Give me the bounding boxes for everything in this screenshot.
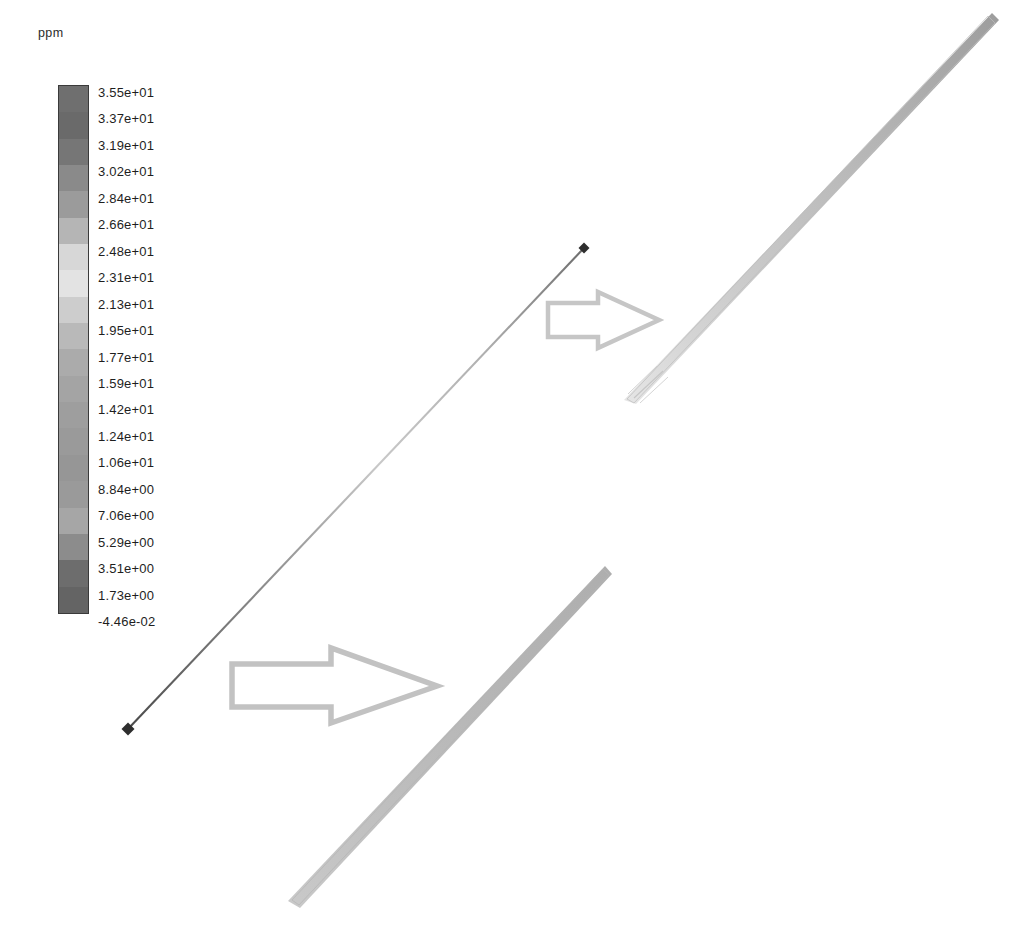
colorbar-tick-label: 3.37e+01 — [98, 111, 154, 126]
colorbar-tick-label: 5.29e+00 — [98, 534, 154, 549]
colorbar-tick-label: 1.95e+01 — [98, 323, 154, 338]
colorbar-tick-label: 2.31e+01 — [98, 270, 154, 285]
colorbar-band-13 — [59, 428, 88, 454]
color-legend: ppm 3.55e+013.37e+013.19e+013.02e+012.84… — [36, 26, 226, 626]
colorbar-tick-label: 1.59e+01 — [98, 375, 154, 390]
colorbar-band-0 — [59, 86, 88, 112]
legend-unit-label: ppm — [38, 26, 64, 40]
colorbar-tick-label: 8.84e+00 — [98, 481, 154, 496]
colorbar-band-9 — [59, 323, 88, 349]
colorbar-band-5 — [59, 218, 88, 244]
reference-line-marker-start — [122, 723, 135, 736]
contour-band-upper-tail-strand-2 — [628, 366, 657, 394]
colorbar-tick-label: 1.42e+01 — [98, 402, 154, 417]
contour-band-lower-right-edge — [292, 569, 609, 905]
contour-band-upper-tail-strand-3 — [640, 377, 668, 403]
colorbar-tick-label: 1.06e+01 — [98, 455, 154, 470]
colorbar-band-8 — [59, 297, 88, 323]
reference-line-marker-end — [579, 243, 590, 254]
colorbar-band-12 — [59, 402, 88, 428]
contour-band-lower-right-fill — [288, 566, 612, 908]
colorbar-tick-label: 3.19e+01 — [98, 137, 154, 152]
colorbar-tick-label: 3.02e+01 — [98, 164, 154, 179]
colorbar-band-3 — [59, 165, 88, 191]
callout-arrow-lower — [232, 648, 437, 723]
colorbar-tick-label: 1.73e+00 — [98, 587, 154, 602]
contour-band-upper-right — [624, 13, 999, 404]
colorbar-tick-label: 2.66e+01 — [98, 217, 154, 232]
contour-band-upper-right-fill — [624, 13, 999, 404]
colorbar-band-14 — [59, 455, 88, 481]
colorbar-tick-label: 3.55e+01 — [98, 85, 154, 100]
colorbar-tick-label: 2.48e+01 — [98, 243, 154, 258]
colorbar-tick-labels: 3.55e+013.37e+013.19e+013.02e+012.84e+01… — [98, 78, 226, 623]
callout-arrow-upper — [548, 292, 659, 348]
colorbar-tick-label: 2.84e+01 — [98, 190, 154, 205]
colorbar-band-18 — [59, 560, 88, 586]
contour-band-lower-right — [288, 566, 612, 908]
colorbar-tick-label: 1.77e+01 — [98, 349, 154, 364]
colorbar-tick-label: 7.06e+00 — [98, 508, 154, 523]
colorbar-tick-label: 1.24e+01 — [98, 428, 154, 443]
colorbar-tick-label: -4.46e-02 — [98, 614, 155, 629]
colorbar-band-15 — [59, 481, 88, 507]
contour-band-upper-right-edge — [627, 16, 995, 403]
colorbar-band-17 — [59, 534, 88, 560]
colorbar-tick-label: 3.51e+00 — [98, 561, 154, 576]
colorbar-band-7 — [59, 270, 88, 296]
colorbar-band-1 — [59, 112, 88, 138]
colorbar-band-19 — [59, 587, 88, 613]
colorbar-band-4 — [59, 191, 88, 217]
colorbar-band-10 — [59, 349, 88, 375]
colorbar-band-16 — [59, 508, 88, 534]
cfd-contour-figure: ppm 3.55e+013.37e+013.19e+013.02e+012.84… — [0, 0, 1026, 925]
colorbar-tick-label: 2.13e+01 — [98, 296, 154, 311]
callout-arrow-upper-outline — [548, 292, 659, 348]
colorbar-band-6 — [59, 244, 88, 270]
callout-arrow-lower-outline — [232, 648, 437, 723]
contour-band-upper-tail-strand-1 — [634, 371, 663, 398]
colorbar-band-11 — [59, 376, 88, 402]
colorbar-gradient — [58, 85, 89, 614]
colorbar-band-2 — [59, 139, 88, 165]
colorbar — [58, 85, 89, 614]
